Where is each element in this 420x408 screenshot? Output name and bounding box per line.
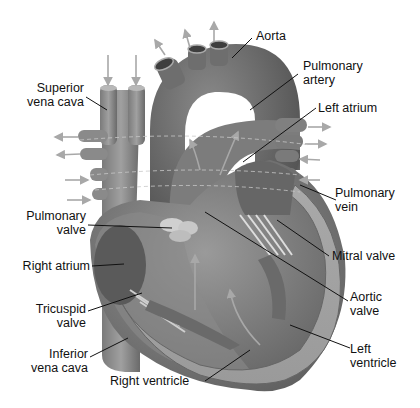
label-line: Pulmonary (18, 209, 86, 223)
label-left-atrium: Left atrium (318, 101, 377, 115)
label-line: ventricle (350, 356, 397, 370)
label-line: valve (20, 316, 86, 330)
heart-diagram: Aorta Pulmonary artery Left atrium Super… (0, 0, 420, 408)
label-aortic-valve: Aortic valve (350, 290, 382, 318)
label-line: Left (350, 342, 397, 356)
label-inferior-vena-cava: Inferior vena cava (20, 347, 88, 375)
label-left-ventricle: Left ventricle (350, 342, 397, 370)
label-aorta: Aorta (256, 29, 286, 43)
label-line: Aortic (350, 290, 382, 304)
label-line: valve (350, 304, 382, 318)
label-pulmonary-valve: Pulmonary valve (18, 209, 86, 237)
label-right-ventricle: Right ventricle (110, 374, 189, 388)
label-line: vena cava (24, 95, 84, 109)
label-line: Inferior (20, 347, 88, 361)
label-line: valve (18, 223, 86, 237)
label-line: Superior (24, 81, 84, 95)
label-superior-vena-cava: Superior vena cava (24, 81, 84, 109)
label-line: Pulmonary (335, 186, 395, 200)
label-right-atrium: Right atrium (10, 259, 90, 273)
label-tricuspid-valve: Tricuspid valve (20, 302, 86, 330)
label-pulmonary-vein: Pulmonary vein (335, 186, 395, 214)
label-line: vena cava (20, 361, 88, 375)
label-line: artery (303, 73, 363, 87)
left-atrium (235, 161, 295, 215)
label-line: vein (335, 200, 395, 214)
label-line: Tricuspid (20, 302, 86, 316)
label-pulmonary-artery: Pulmonary artery (303, 59, 363, 87)
label-mitral-valve: Mitral valve (332, 249, 395, 263)
label-line: Pulmonary (303, 59, 363, 73)
